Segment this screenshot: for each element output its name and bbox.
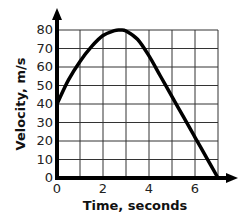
y-tick-label: 80 [29, 23, 53, 37]
x-tick-label: 2 [96, 182, 110, 196]
y-tick-label: 70 [29, 42, 53, 56]
y-tick-label: 60 [29, 60, 53, 74]
y-axis-arrow-icon [52, 8, 62, 20]
grid-lines [57, 30, 218, 178]
y-tick-label: 40 [29, 97, 53, 111]
x-axis-arrow-icon [226, 173, 238, 183]
velocity-time-chart: 01020304050607080 0246 Velocity, m/s Tim… [0, 0, 248, 222]
x-axis-label: Time, seconds [60, 198, 210, 213]
y-tick-label: 30 [29, 116, 53, 130]
y-axis-label: Velocity, m/s [13, 49, 29, 159]
y-tick-label: 20 [29, 134, 53, 148]
x-tick-label: 6 [188, 182, 202, 196]
y-tick-label: 50 [29, 79, 53, 93]
y-tick-label: 10 [29, 153, 53, 167]
x-tick-label: 4 [142, 182, 156, 196]
x-tick-label: 0 [50, 182, 64, 196]
